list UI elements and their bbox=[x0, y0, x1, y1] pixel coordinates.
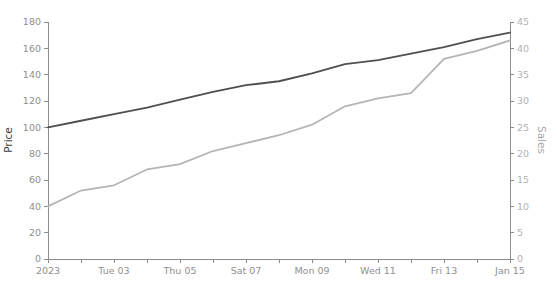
right-axis-tick-label: 25 bbox=[517, 122, 529, 133]
left-axis-tick-label: 140 bbox=[23, 69, 41, 80]
chart-canvas: 0204060801001201401601800510152025303540… bbox=[0, 0, 557, 290]
left-axis-tick-label: 40 bbox=[29, 201, 41, 212]
right-axis-tick-label: 5 bbox=[517, 227, 523, 238]
left-axis-tick-label: 20 bbox=[29, 227, 41, 238]
left-axis-tick-label: 160 bbox=[23, 43, 41, 54]
left-axis-tick-label: 0 bbox=[35, 253, 41, 264]
right-axis-tick-label: 20 bbox=[517, 148, 529, 159]
right-axis-tick-label: 45 bbox=[517, 16, 529, 27]
x-axis-tick-label: Thu 05 bbox=[163, 265, 197, 276]
right-axis-tick-label: 30 bbox=[517, 95, 529, 106]
x-axis-tick-label: Tue 03 bbox=[97, 265, 129, 276]
left-axis-tick-label: 120 bbox=[23, 95, 41, 106]
right-axis-tick-label: 0 bbox=[517, 253, 523, 264]
right-axis-tick-label: 40 bbox=[517, 43, 529, 54]
dual-axis-line-chart: 0204060801001201401601800510152025303540… bbox=[0, 0, 557, 290]
x-axis-tick-label: 2023 bbox=[36, 265, 60, 276]
price-line bbox=[48, 33, 510, 128]
right-axis-tick-label: 15 bbox=[517, 174, 529, 185]
right-axis-tick-label: 35 bbox=[517, 69, 529, 80]
chart-generated-layer: 0204060801001201401601800510152025303540… bbox=[23, 16, 529, 276]
left-axis-tick-label: 100 bbox=[23, 122, 41, 133]
right-axis-tick-label: 10 bbox=[517, 201, 529, 212]
sales-line bbox=[48, 40, 510, 206]
right-axis-title: Sales bbox=[536, 126, 548, 154]
left-axis-tick-label: 80 bbox=[29, 148, 41, 159]
x-axis-tick-label: Fri 13 bbox=[431, 265, 457, 276]
x-axis-tick-label: Sat 07 bbox=[231, 265, 262, 276]
x-axis-tick-label: Jan 15 bbox=[494, 265, 525, 276]
x-axis-tick-label: Mon 09 bbox=[294, 265, 329, 276]
x-axis-tick-label: Wed 11 bbox=[360, 265, 396, 276]
left-axis-tick-label: 60 bbox=[29, 174, 41, 185]
left-axis-tick-label: 180 bbox=[23, 16, 41, 27]
left-axis-title: Price bbox=[2, 127, 14, 153]
